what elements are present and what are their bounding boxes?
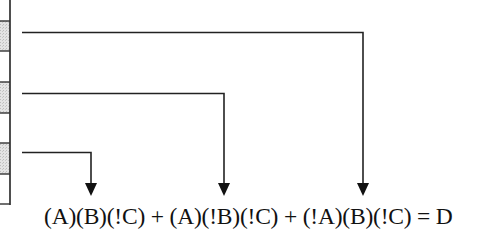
arrowhead-icon [85,183,97,196]
arrowhead-icon [357,183,369,196]
table-row-shaded [0,82,10,113]
truth-table-column [0,0,10,205]
table-row-shaded [0,143,10,174]
arrow-to-term-3 [22,33,369,197]
arrow-to-term-2 [22,94,230,197]
arrow-to-term-1 [22,153,97,197]
boolean-formula: (A)(B)(!C) + (A)(!B)(!C) + (!A)(B)(!C) =… [44,203,484,230]
arrowhead-icon [218,183,230,196]
table-row-shaded [0,21,10,51]
